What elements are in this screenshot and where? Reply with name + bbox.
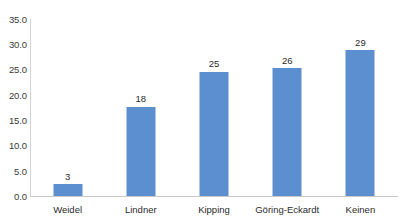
y-tick-label: 0.0: [0, 191, 27, 202]
x-label-slot: Lindner: [104, 199, 177, 217]
bar-lindner[interactable]: [126, 107, 155, 197]
x-axis-tick-labels: Weidel Lindner Kipping Göring-Eckardt Ke…: [31, 199, 397, 220]
x-label-slot: Göring-Eckardt: [251, 199, 324, 217]
chart-title-cutoff: [150, 0, 400, 5]
bar-keinen[interactable]: [346, 50, 375, 196]
bar-chart: 35.0 30.0 25.0 20.0 15.0 10.0 5.0 0.0 3 …: [0, 0, 403, 220]
x-label-slot: Keinen: [324, 199, 397, 217]
bar-slot: 25: [177, 19, 250, 196]
bar-slot: 26: [251, 19, 324, 196]
x-tick-label-kipping: Kipping: [198, 204, 230, 215]
y-tick-label: 25.0: [0, 64, 27, 75]
y-tick-label: 10.0: [0, 140, 27, 151]
bar-value-label: 25: [209, 58, 220, 69]
bars-container: 3 18 25 26 29: [31, 19, 397, 196]
x-tick-label-keinen: Keinen: [346, 204, 376, 215]
bar-value-label: 29: [355, 37, 366, 48]
bar-kipping[interactable]: [199, 72, 228, 196]
x-label-slot: Kipping: [177, 199, 250, 217]
y-tick-label: 5.0: [0, 166, 27, 177]
y-tick-label: 35.0: [0, 14, 27, 25]
x-tick-label-weidel: Weidel: [53, 204, 82, 215]
bar-weidel[interactable]: [53, 184, 82, 196]
bar-value-label: 26: [282, 55, 293, 66]
x-label-slot: Weidel: [31, 199, 104, 217]
bar-slot: 3: [31, 19, 104, 196]
y-tick-label: 30.0: [0, 39, 27, 50]
bar-slot: 18: [104, 19, 177, 196]
bar-value-label: 3: [65, 171, 70, 182]
y-axis-tick-labels: 35.0 30.0 25.0 20.0 15.0 10.0 5.0 0.0: [0, 0, 28, 220]
bar-value-label: 18: [135, 93, 146, 104]
y-tick-label: 20.0: [0, 90, 27, 101]
bar-goering-eckardt[interactable]: [273, 68, 302, 196]
y-tick-label: 15.0: [0, 115, 27, 126]
x-axis-line: [30, 196, 398, 197]
x-tick-label-lindner: Lindner: [125, 204, 157, 215]
x-tick-label-goering-eckardt: Göring-Eckardt: [255, 204, 319, 215]
bar-slot: 29: [324, 19, 397, 196]
